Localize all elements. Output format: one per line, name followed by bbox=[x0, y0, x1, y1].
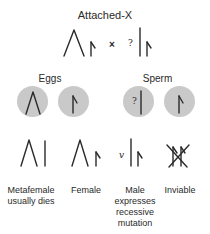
unknown-marker: ? bbox=[132, 96, 137, 106]
diagram-title: Attached-X bbox=[65, 9, 145, 21]
y-chromosome-icon bbox=[58, 86, 89, 117]
x-y-chromosome-icon bbox=[134, 26, 156, 58]
inviable-crossed-chromosomes-icon bbox=[163, 139, 193, 169]
male-caption: Male expresses recessive mutation bbox=[110, 185, 160, 229]
egg-y bbox=[58, 86, 89, 117]
metafemale-caption: Metafemale usually dies bbox=[2, 185, 60, 207]
unknown-marker: ? bbox=[128, 38, 133, 48]
attached-x-chromosome-icon bbox=[17, 86, 48, 117]
x-chromosome-icon bbox=[123, 86, 154, 117]
sperm-x: ? bbox=[123, 86, 154, 117]
sperm-y bbox=[164, 86, 195, 117]
egg-attached-x bbox=[17, 86, 48, 117]
attached-x-chromosome-icon bbox=[60, 26, 100, 58]
metafemale-chromosomes-icon bbox=[18, 136, 50, 168]
inviable-caption: Inviable bbox=[160, 185, 200, 196]
eggs-label: Eggs bbox=[30, 73, 70, 84]
female-caption: Female bbox=[66, 185, 106, 196]
sperm-label: Sperm bbox=[135, 73, 180, 84]
male-chromosomes-icon bbox=[124, 136, 148, 168]
y-chromosome-icon bbox=[164, 86, 195, 117]
cross-symbol: × bbox=[109, 39, 115, 50]
female-chromosomes-icon bbox=[68, 136, 104, 168]
